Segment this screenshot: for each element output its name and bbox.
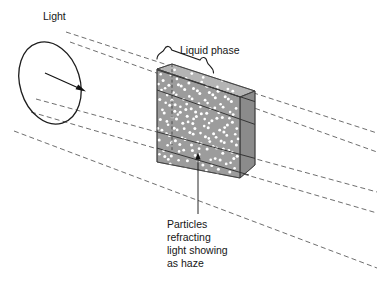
note-line-3: light showing: [167, 244, 228, 256]
haze-refraction-diagram: Liquid phase Light Particles refracting …: [0, 0, 377, 281]
note-line-4: as haze: [167, 257, 204, 269]
liquid-phase-label: Liquid phase: [180, 44, 240, 56]
figure-root: Liquid phase Light Particles refracting …: [0, 0, 377, 281]
note-line-1: Particles: [167, 218, 207, 230]
liquid-phase-slab: [157, 64, 255, 178]
note-line-2: refracting: [167, 231, 211, 243]
light-label: Light: [43, 10, 66, 22]
slab-side-face: [240, 91, 255, 178]
